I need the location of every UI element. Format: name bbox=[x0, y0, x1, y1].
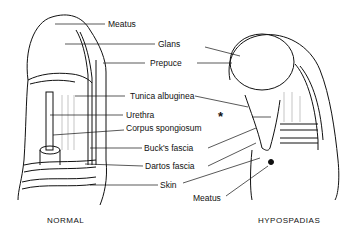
label-corpus-spongiosum: Corpus spongiosum bbox=[126, 124, 202, 133]
label-meatus-bottom: Meatus bbox=[193, 194, 221, 203]
label-tunica-albuginea: Tunica albuginea bbox=[130, 92, 194, 101]
label-prepuce: Prepuce bbox=[150, 59, 182, 68]
normal-penis-drawing bbox=[18, 15, 107, 205]
anatomy-illustration bbox=[0, 0, 359, 231]
label-skin: Skin bbox=[160, 181, 177, 190]
label-bucks-fascia: Buck's fascia bbox=[144, 144, 193, 153]
label-dartos-fascia: Dartos fascia bbox=[145, 162, 195, 171]
label-meatus-top: Meatus bbox=[108, 20, 136, 29]
label-urethra: Urethra bbox=[126, 111, 154, 120]
label-glans: Glans bbox=[158, 40, 180, 49]
asterisk-marker: * bbox=[218, 110, 223, 123]
caption-hypospadias: HYPOSPADIAS bbox=[258, 217, 320, 225]
hypospadias-drawing bbox=[229, 34, 339, 200]
caption-normal: NORMAL bbox=[47, 217, 84, 225]
